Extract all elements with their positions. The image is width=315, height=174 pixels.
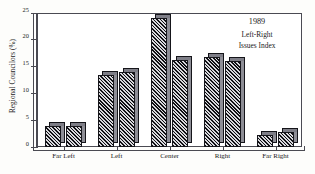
bar-front-face [119, 72, 136, 147]
bar-side-face [188, 56, 192, 143]
bar [45, 126, 62, 147]
x-tick-label: Right [215, 152, 231, 160]
bar-side-face [114, 71, 118, 143]
bar-front-face [45, 126, 62, 147]
bar-side-face [220, 53, 224, 143]
bar-front-face [66, 126, 83, 147]
x-tick-label: Left [111, 152, 123, 160]
bar-front-face [257, 135, 274, 147]
chart-annotation: 1989 Left-Right Issues Index [211, 16, 303, 52]
bar [151, 18, 168, 147]
bar [119, 72, 136, 147]
x-tick-label: Far Left [52, 152, 75, 160]
bar-front-face [278, 132, 295, 147]
x-tick-mark [223, 147, 224, 151]
bar [204, 57, 221, 147]
bar-side-face [135, 68, 139, 143]
bar-front-face [204, 57, 221, 147]
x-tick-mark [64, 147, 65, 151]
x-tick-label: Center [160, 152, 179, 160]
bar-side-face [241, 57, 245, 143]
annotation-line-3: Issues Index [211, 40, 303, 51]
annotation-line-2: Left-Right [211, 29, 303, 40]
bar [257, 135, 274, 147]
y-axis-title: Regional Councilors (%) [9, 16, 17, 136]
bar-front-face [98, 75, 115, 147]
bar [278, 132, 295, 147]
annotation-year: 1989 [211, 16, 303, 29]
bar-front-face [172, 60, 189, 147]
x-tick-mark [117, 147, 118, 151]
bar [172, 60, 189, 147]
bar [225, 61, 242, 147]
x-tick-mark [276, 147, 277, 151]
chart-figure: Regional Councilors (%) 0510152025 Far L… [0, 0, 315, 174]
bar-front-face [151, 18, 168, 147]
x-tick-label: Far Right [262, 152, 289, 160]
bar [66, 126, 83, 147]
bar-front-face [225, 61, 242, 147]
x-tick-mark [170, 147, 171, 151]
bar-side-face [167, 14, 171, 143]
bar [98, 75, 115, 147]
